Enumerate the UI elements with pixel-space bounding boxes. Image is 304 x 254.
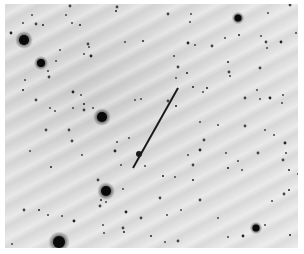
faint-star [144, 165, 146, 167]
faint-star [159, 197, 162, 200]
faint-star [122, 227, 125, 230]
faint-star [174, 176, 176, 178]
faint-star [257, 152, 260, 155]
faint-star [61, 215, 63, 217]
faint-star [29, 150, 31, 152]
faint-star [224, 37, 226, 39]
faint-star [280, 41, 283, 44]
faint-star [217, 124, 219, 126]
faint-star [59, 49, 61, 51]
faint-star [81, 154, 83, 156]
faint-star [79, 24, 81, 26]
faint-star [237, 160, 239, 162]
faint-star [122, 188, 124, 190]
faint-star [87, 43, 90, 46]
faint-star [177, 66, 180, 69]
faint-star [72, 91, 75, 94]
faint-star [217, 217, 219, 219]
faint-star [288, 169, 290, 171]
bright-stars [15, 12, 262, 248]
bright-star [253, 225, 260, 232]
faint-star [284, 142, 287, 145]
faint-star [123, 231, 125, 233]
faint-star [65, 14, 67, 16]
faint-star [150, 235, 152, 237]
faint-star [99, 205, 102, 208]
faint-star [50, 166, 52, 168]
bright-star [19, 35, 29, 45]
faint-star [186, 72, 188, 74]
faint-star [22, 89, 24, 91]
faint-star [273, 134, 275, 136]
faint-star [140, 98, 142, 100]
faint-star [92, 107, 94, 109]
faint-star [142, 40, 144, 42]
faint-star [266, 47, 268, 49]
faint-star [271, 200, 273, 202]
faint-star [289, 234, 291, 236]
faint-star [295, 32, 297, 34]
faint-star [114, 150, 117, 153]
bright-star [37, 59, 45, 67]
faint-star [120, 164, 122, 166]
faint-star [54, 110, 56, 112]
faint-star [102, 224, 104, 226]
faint-star [116, 6, 119, 9]
faint-star [202, 91, 204, 93]
faint-star [11, 243, 13, 245]
faint-star [10, 32, 13, 35]
faint-star [238, 34, 240, 36]
faint-star [192, 86, 194, 88]
faint-star [288, 189, 290, 191]
faint-star [71, 140, 74, 143]
faint-star [227, 167, 229, 169]
faint-star [83, 103, 85, 105]
faint-star [281, 102, 283, 104]
faint-star [267, 12, 269, 14]
faint-star [35, 23, 38, 26]
faint-star [173, 55, 175, 57]
faint-star [80, 94, 82, 96]
faint-star [90, 55, 93, 58]
faint-star [244, 125, 247, 128]
faint-star [282, 159, 285, 162]
faint-star [289, 4, 292, 6]
faint-star [282, 94, 284, 96]
faint-star [175, 77, 177, 79]
faint-star [83, 109, 86, 112]
faint-star [49, 107, 51, 109]
faint-star [83, 53, 85, 55]
faint-star [227, 61, 229, 63]
faint-star [242, 235, 245, 238]
faint-star [97, 179, 100, 182]
faint-star [24, 79, 26, 81]
faint-stars [10, 4, 298, 248]
faint-star [192, 179, 194, 181]
faint-star [47, 70, 49, 72]
faint-star [180, 209, 182, 211]
faint-star [265, 41, 268, 44]
faint-star [55, 60, 57, 62]
faint-star [187, 42, 190, 45]
faint-star [244, 97, 247, 100]
faint-star [269, 97, 272, 100]
faint-star [134, 99, 136, 101]
faint-star [115, 10, 117, 12]
faint-star [100, 199, 102, 201]
faint-star [259, 98, 261, 100]
faint-star [192, 164, 195, 167]
faint-star [42, 24, 44, 26]
faint-star [264, 224, 266, 226]
faint-star [211, 45, 214, 48]
faint-star [162, 175, 164, 177]
faint-star [203, 139, 206, 142]
faint-star [103, 232, 105, 234]
faint-star [140, 217, 143, 220]
faint-star [47, 214, 49, 216]
faint-star [69, 5, 72, 8]
faint-star [285, 152, 287, 154]
faint-star [256, 89, 258, 91]
faint-star [73, 220, 76, 223]
faint-star [194, 44, 196, 46]
faint-star [105, 201, 107, 203]
